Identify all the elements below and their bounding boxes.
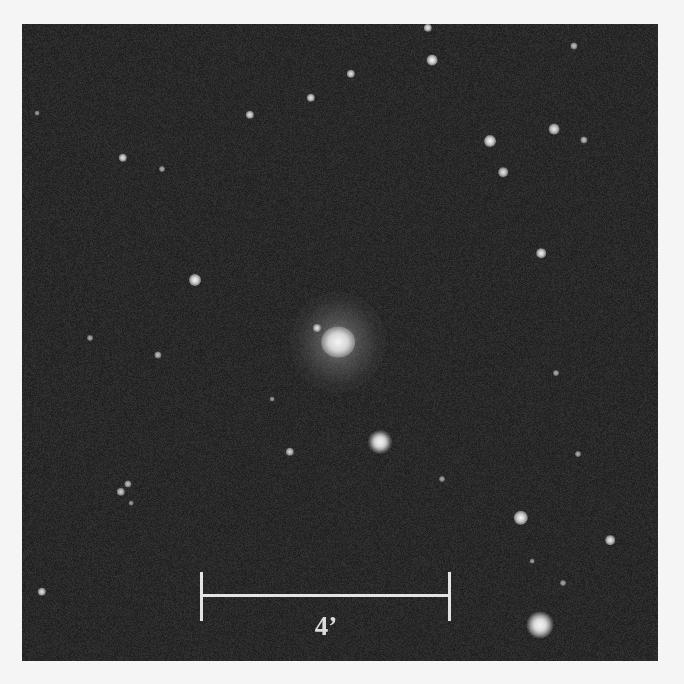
star xyxy=(87,335,93,341)
star xyxy=(536,248,546,258)
star xyxy=(427,55,438,66)
star xyxy=(270,397,275,402)
companion-star xyxy=(313,324,321,332)
star xyxy=(129,501,134,506)
star xyxy=(189,274,201,286)
star xyxy=(35,111,40,116)
star xyxy=(530,559,535,564)
star xyxy=(439,476,445,482)
star xyxy=(575,451,581,457)
star xyxy=(484,135,496,147)
star xyxy=(553,370,559,376)
star xyxy=(560,580,566,586)
star xyxy=(498,167,508,177)
star xyxy=(159,166,165,172)
figure-frame: 4’ xyxy=(0,0,684,684)
star xyxy=(605,535,615,545)
star xyxy=(549,124,560,135)
sky-image xyxy=(22,24,658,661)
galaxy-core xyxy=(321,327,355,358)
